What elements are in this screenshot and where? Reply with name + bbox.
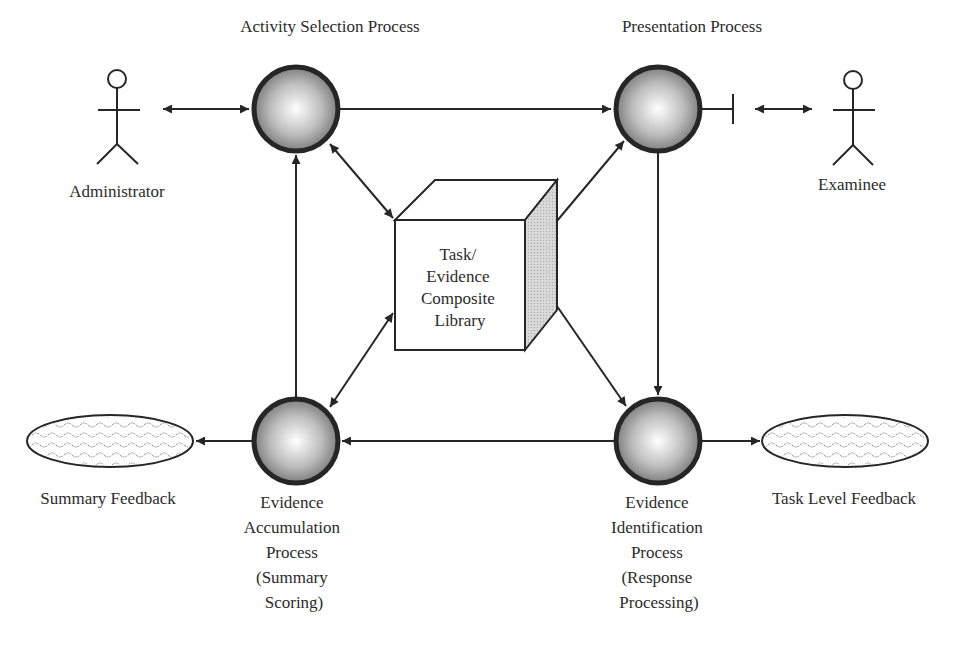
process-evidence-accumulation[interactable] [254, 399, 338, 483]
process-presentation[interactable] [616, 67, 700, 151]
sphere-evidence-identification[interactable] [616, 399, 700, 483]
connector-library-activity-selection [330, 144, 393, 218]
figure-caption-cropped [300, 641, 660, 649]
task-level-feedback-label: Task Level Feedback [772, 489, 917, 508]
evidence-identification-label: Evidence Identification Process (Respons… [611, 493, 707, 612]
process-evidence-identification[interactable] [616, 399, 700, 483]
task-level-feedback-wave-fill [764, 417, 926, 465]
summary-feedback-output[interactable] [27, 415, 193, 467]
presentation-label: Presentation Process [622, 17, 762, 36]
connector-library-accumulation [330, 313, 393, 407]
evidence-accumulation-label: Evidence Accumulation Process (Summary S… [244, 493, 345, 612]
process-activity-selection[interactable] [254, 67, 338, 151]
administrator-actor-icon [97, 70, 140, 164]
four-process-architecture-diagram: Task/ Evidence Composite Library Activit… [0, 0, 961, 649]
activity-selection-label: Activity Selection Process [240, 17, 419, 36]
sphere-activity-selection[interactable] [254, 67, 338, 151]
task-level-feedback-output[interactable] [762, 415, 928, 467]
sphere-evidence-accumulation[interactable] [254, 399, 338, 483]
administrator-label: Administrator [69, 182, 165, 201]
examinee-label: Examinee [818, 175, 886, 194]
summary-feedback-label: Summary Feedback [40, 489, 176, 508]
summary-feedback-wave-fill [29, 417, 191, 465]
examinee-actor-icon [833, 71, 875, 165]
sphere-presentation[interactable] [616, 67, 700, 151]
